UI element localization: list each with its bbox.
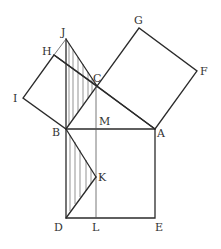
line-JH <box>54 39 66 55</box>
label-L: L <box>92 221 100 234</box>
label-E: E <box>155 221 163 234</box>
upper-hatching <box>69 43 92 125</box>
label-B: B <box>52 126 60 139</box>
line-KD <box>66 177 96 218</box>
label-C: C <box>93 72 101 85</box>
label-A: A <box>156 127 166 140</box>
label-H: H <box>42 45 52 58</box>
label-F: F <box>200 65 208 78</box>
square-on-AB <box>66 129 155 218</box>
label-J: J <box>60 26 65 39</box>
line-BK <box>66 129 96 177</box>
label-I: I <box>13 92 17 105</box>
label-D: D <box>54 221 63 234</box>
square-on-CA <box>97 28 197 129</box>
label-K: K <box>98 171 107 184</box>
pythagorean-proof-diagram: J H G F C I M B A K D L E <box>0 0 221 249</box>
lower-hatching <box>70 135 91 211</box>
point-labels: J H G F C I M B A K D L E <box>13 14 208 234</box>
label-G: G <box>134 14 143 27</box>
square-on-BC <box>23 55 97 129</box>
label-M: M <box>99 115 110 128</box>
